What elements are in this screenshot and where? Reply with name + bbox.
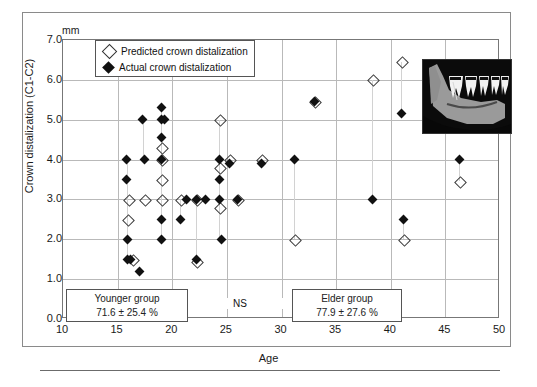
legend-label-actual: Actual crown distalization bbox=[119, 62, 231, 73]
ns-label: NS bbox=[229, 298, 251, 309]
younger-group-box: Younger group 71.6 ± 25.4 % bbox=[66, 289, 188, 322]
data-point-actual bbox=[200, 194, 210, 204]
data-point-actual bbox=[156, 234, 166, 244]
x-tick-label: 10 bbox=[56, 323, 68, 335]
data-point-actual bbox=[121, 175, 131, 185]
gridline-vertical bbox=[391, 40, 392, 317]
x-tick-label: 20 bbox=[165, 323, 177, 335]
elder-group-value: 77.9 ± 27.6 % bbox=[316, 306, 378, 320]
data-point-actual bbox=[156, 214, 166, 224]
elder-group-box: Elder group 77.9 ± 27.6 % bbox=[292, 289, 402, 322]
x-tick-label: 50 bbox=[493, 323, 505, 335]
gridline-vertical bbox=[282, 40, 283, 317]
figure-page: mm Crown distalization (C1-C2) Age 0.01.… bbox=[0, 0, 537, 387]
legend-item-actual: Actual crown distalization bbox=[104, 62, 231, 73]
open-diamond-icon bbox=[102, 44, 118, 60]
elder-group-label: Elder group bbox=[321, 292, 373, 306]
gridline-vertical bbox=[118, 40, 119, 317]
data-point-predicted bbox=[214, 202, 227, 215]
y-tick-label: 1.0 bbox=[0, 272, 67, 284]
gridline-horizontal bbox=[63, 279, 498, 280]
x-tick-label: 15 bbox=[111, 323, 123, 335]
radiograph-svg bbox=[423, 60, 511, 133]
data-point-actual bbox=[121, 155, 131, 165]
data-point-actual bbox=[176, 214, 186, 224]
data-point-predicted bbox=[289, 234, 302, 247]
data-point-actual bbox=[399, 214, 409, 224]
data-point-predicted bbox=[454, 176, 467, 189]
x-tick-label: 35 bbox=[329, 323, 341, 335]
x-tick-label: 30 bbox=[274, 323, 286, 335]
data-point-actual bbox=[138, 115, 148, 125]
y-tick-label: 3.0 bbox=[0, 192, 67, 204]
pair-connector-line bbox=[372, 80, 373, 200]
data-point-actual bbox=[290, 155, 300, 165]
filled-diamond-icon bbox=[102, 61, 115, 74]
data-point-predicted bbox=[156, 174, 169, 187]
y-tick-label: 5.0 bbox=[0, 113, 67, 125]
data-point-predicted bbox=[367, 74, 380, 87]
gridline-vertical bbox=[227, 40, 228, 317]
data-point-predicted bbox=[214, 114, 227, 127]
y-axis-title: Crown distalization (C1-C2) bbox=[23, 11, 35, 241]
data-point-actual bbox=[397, 109, 407, 119]
x-tick-label: 25 bbox=[220, 323, 232, 335]
figure-caption-rule bbox=[40, 370, 500, 371]
gridline-vertical bbox=[336, 40, 337, 317]
pair-connector-line bbox=[294, 160, 295, 240]
x-tick-label: 45 bbox=[438, 323, 450, 335]
x-tick-label: 40 bbox=[384, 323, 396, 335]
significance-annotation: NS bbox=[188, 298, 292, 312]
legend-box: Predicted crown distalization Actual cro… bbox=[95, 40, 255, 77]
data-point-actual bbox=[123, 234, 133, 244]
legend-label-predicted: Predicted crown distalization bbox=[121, 46, 248, 57]
younger-group-label: Younger group bbox=[94, 292, 159, 306]
gridline-vertical bbox=[172, 40, 173, 317]
data-point-actual bbox=[455, 155, 465, 165]
y-tick-label: 7.0 bbox=[0, 33, 67, 45]
younger-group-value: 71.6 ± 25.4 % bbox=[96, 306, 158, 320]
data-point-predicted bbox=[398, 234, 411, 247]
data-point-predicted bbox=[140, 194, 153, 207]
data-point-predicted bbox=[396, 57, 409, 70]
y-tick-label: 6.0 bbox=[0, 73, 67, 85]
pair-connector-line bbox=[401, 62, 402, 114]
data-point-actual bbox=[135, 266, 145, 276]
mandible-radiograph-inset bbox=[422, 59, 512, 134]
ns-text-wrap: NS bbox=[188, 298, 292, 309]
data-point-actual bbox=[156, 133, 166, 143]
data-point-predicted bbox=[123, 194, 136, 207]
x-axis-title: Age bbox=[0, 352, 537, 364]
pair-connector-line bbox=[196, 199, 197, 261]
data-point-actual bbox=[214, 194, 224, 204]
data-point-actual bbox=[214, 175, 224, 185]
y-tick-label: 4.0 bbox=[0, 153, 67, 165]
data-point-actual bbox=[140, 155, 150, 165]
data-point-actual bbox=[214, 155, 224, 165]
data-point-predicted bbox=[122, 214, 135, 227]
legend-item-predicted: Predicted crown distalization bbox=[104, 46, 248, 57]
data-point-actual bbox=[156, 103, 166, 113]
y-tick-label: 2.0 bbox=[0, 232, 67, 244]
data-point-predicted bbox=[156, 194, 169, 207]
data-point-actual bbox=[367, 194, 377, 204]
